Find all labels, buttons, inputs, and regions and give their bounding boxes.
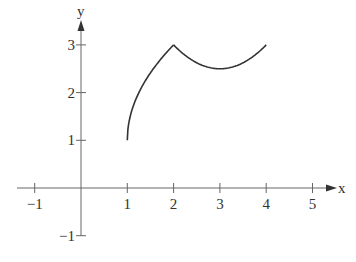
x-tick-label: 4 bbox=[262, 196, 270, 212]
x-tick-label: −1 bbox=[27, 196, 43, 212]
y-ticks: −1123 bbox=[59, 37, 86, 244]
x-tick-label: 5 bbox=[309, 196, 317, 212]
x-tick-label: 1 bbox=[124, 196, 132, 212]
curve-piece-1 bbox=[127, 45, 173, 140]
curve-piece-2 bbox=[174, 45, 267, 69]
x-ticks: −112345 bbox=[27, 183, 317, 212]
axes: x y bbox=[17, 3, 346, 236]
y-tick-label: 3 bbox=[68, 37, 76, 53]
curves bbox=[127, 45, 266, 140]
y-axis-arrow-icon bbox=[78, 20, 85, 31]
x-tick-label: 2 bbox=[170, 196, 178, 212]
y-tick-label: −1 bbox=[59, 228, 75, 244]
x-tick-label: 3 bbox=[216, 196, 224, 212]
x-axis-label: x bbox=[338, 180, 346, 196]
x-axis-arrow-icon bbox=[326, 185, 337, 192]
function-graph: x y −112345 −1123 bbox=[0, 0, 356, 262]
y-axis-label: y bbox=[77, 3, 85, 19]
y-tick-label: 1 bbox=[68, 132, 76, 148]
y-tick-label: 2 bbox=[68, 85, 76, 101]
